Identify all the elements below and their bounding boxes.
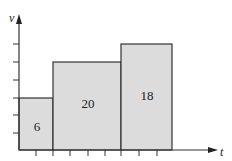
bar-1-label: 6 (34, 119, 41, 134)
x-axis-arrow-icon (208, 147, 218, 153)
bar-2-label: 20 (82, 96, 95, 111)
y-ticks (13, 44, 19, 133)
y-axis-arrow-icon (16, 14, 22, 24)
x-axis-label: t (220, 145, 224, 159)
x-ticks (36, 150, 157, 156)
y-axis-label: v (9, 11, 15, 25)
bar-3-label: 18 (141, 88, 154, 103)
area-bar-chart: v t 6 20 18 (0, 0, 232, 161)
